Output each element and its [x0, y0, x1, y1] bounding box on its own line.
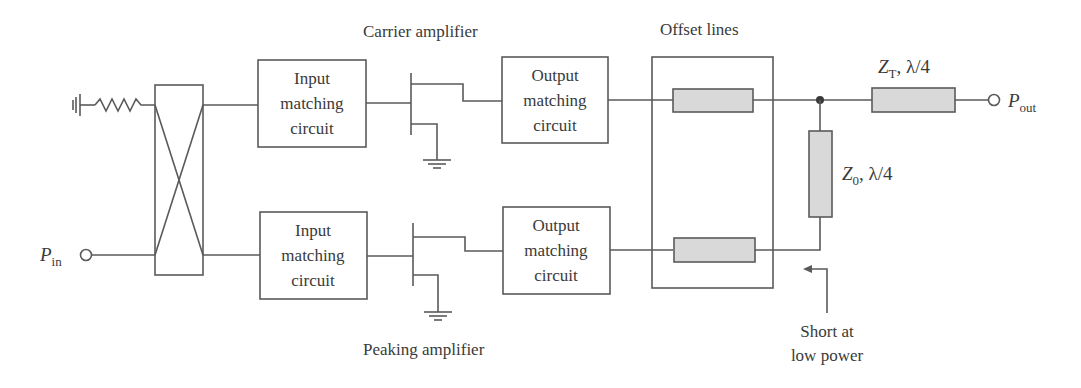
input-port: Pin	[39, 244, 155, 269]
svg-text:Input: Input	[295, 221, 331, 240]
svg-text:matching: matching	[524, 241, 588, 260]
output-port: Pout	[989, 90, 1037, 115]
resistor-icon	[95, 99, 155, 111]
offset-lines-group	[652, 57, 773, 288]
zt-quarter-wave-line	[872, 88, 955, 112]
svg-text:circuit: circuit	[290, 119, 334, 138]
pout-label: Pout	[1007, 90, 1037, 115]
peaking-amplifier-label: Peaking amplifier	[363, 340, 485, 359]
input-matching-circuit-bottom: Input matching circuit	[260, 212, 367, 299]
svg-text:circuit: circuit	[534, 266, 578, 285]
offset-line-bottom	[674, 238, 755, 262]
svg-text:Input: Input	[294, 69, 330, 88]
short-arrow-icon	[803, 265, 827, 313]
ground-icon	[73, 94, 80, 116]
carrier-amplifier-label: Carrier amplifier	[363, 22, 478, 41]
svg-text:matching: matching	[281, 246, 345, 265]
short-label-line2: low power	[791, 346, 864, 365]
output-matching-circuit-top: Output matching circuit	[502, 57, 608, 143]
ground-icon	[424, 312, 452, 320]
input-matching-circuit-top: Input matching circuit	[258, 60, 366, 147]
ground-icon	[423, 160, 451, 168]
pin-label: Pin	[39, 244, 62, 269]
svg-text:circuit: circuit	[291, 271, 335, 290]
svg-text:Output: Output	[532, 216, 580, 235]
input-port-circle	[81, 250, 92, 261]
doherty-amplifier-diagram: Pin Input matching circuit Carrier ampli…	[0, 0, 1081, 388]
svg-text:matching: matching	[523, 91, 587, 110]
hybrid-coupler	[155, 85, 203, 275]
output-port-circle	[989, 95, 1000, 106]
svg-text:matching: matching	[280, 94, 344, 113]
output-matching-circuit-bottom: Output matching circuit	[503, 207, 610, 294]
carrier-transistor-icon	[411, 73, 502, 168]
zt-label: ZT, λ/4	[878, 56, 931, 81]
short-label-line1: Short at	[800, 322, 854, 341]
z0-label: Z0, λ/4	[842, 163, 893, 188]
offset-lines-label: Offset lines	[660, 20, 739, 39]
svg-text:circuit: circuit	[533, 116, 577, 135]
peaking-transistor-icon	[413, 223, 503, 320]
termination-resistor	[73, 94, 155, 116]
z0-quarter-wave-line	[809, 131, 832, 217]
svg-text:Output: Output	[531, 66, 579, 85]
offset-line-top	[673, 89, 753, 112]
